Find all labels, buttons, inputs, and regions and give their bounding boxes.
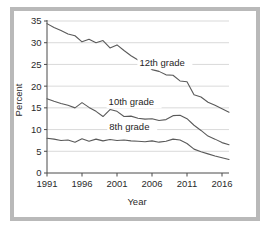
data-series-group — [47, 24, 229, 160]
series-line-8th-grade — [47, 138, 229, 159]
y-tick-label: 5 — [36, 146, 41, 157]
series-annotations: 12th grade10th grade8th grade — [107, 57, 193, 132]
x-tick-label: 1996 — [71, 178, 92, 189]
line-chart: 05101520253035 199119962001200620112016 … — [0, 0, 265, 230]
y-axis-label: Percent — [13, 83, 24, 116]
series-annotation: 12th grade — [139, 57, 184, 68]
y-tick-label: 20 — [31, 81, 42, 92]
x-tick-label: 2001 — [106, 178, 127, 189]
y-tick-label: 15 — [31, 102, 42, 113]
series-annotation: 10th grade — [109, 96, 154, 107]
figure-root: 05101520253035 199119962001200620112016 … — [0, 0, 265, 230]
y-tick-label: 10 — [31, 124, 42, 135]
x-axis-ticks: 199119962001200620112016 — [36, 173, 232, 189]
x-tick-label: 1991 — [36, 178, 57, 189]
y-tick-label: 30 — [31, 37, 42, 48]
chart-canvas: 05101520253035 199119962001200620112016 … — [0, 0, 265, 230]
x-axis-label: Year — [127, 196, 146, 207]
y-tick-label: 25 — [31, 59, 42, 70]
y-tick-label: 0 — [36, 167, 41, 178]
x-tick-label: 2011 — [177, 178, 197, 189]
y-axis-ticks: 05101520253035 — [31, 15, 47, 178]
x-tick-label: 2016 — [211, 178, 232, 189]
series-annotation: 8th grade — [109, 121, 149, 132]
y-tick-label: 35 — [31, 15, 42, 26]
x-tick-label: 2006 — [141, 178, 162, 189]
